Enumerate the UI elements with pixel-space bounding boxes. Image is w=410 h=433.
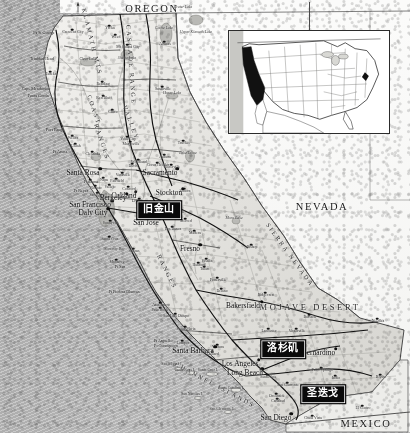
range-label-cascade-range: CASCADE RANGE: [125, 25, 137, 106]
city-label-santa-cruz: Santa Cruz: [101, 238, 118, 242]
city-label-chico: Chico: [108, 111, 117, 115]
coast-label-pt-piedras-blancas: Pt Piedras Blancas: [108, 290, 139, 294]
range-label-central-valley: VALLEY: [122, 104, 141, 141]
city-label-long-beach: Long Beach: [227, 369, 263, 376]
city-label-porterville: Porterville: [210, 279, 226, 283]
coast-label-trinidad-head: Trinidad Head: [30, 57, 54, 61]
city-label-visalia: Visalia: [202, 260, 213, 264]
city-label-susanville: Susanville: [155, 88, 171, 92]
california-reference-map: OREGONNEVADAMEXICOMOJAVE DESERTCOASTRANG…: [0, 0, 410, 433]
island-label-san-nicolas-i: San Nicolas I.: [181, 393, 203, 397]
city-label-vallejo: Vallejo: [104, 186, 115, 190]
city-label-san-clemente: San Clemente: [277, 384, 299, 388]
city-label-stockton: Stockton: [156, 189, 182, 196]
region-label-mexico: MEXICO: [340, 419, 391, 430]
island-label-santa-rosa-i: Santa Rosa I.: [175, 369, 196, 373]
region-label-oregon: OREGON: [125, 4, 178, 15]
island-label-san-clemente-i: San Clemente I.: [210, 408, 235, 412]
city-label-monterey: Monterey: [109, 261, 124, 265]
water-label-monterey-bay: Monterey Bay: [103, 248, 124, 252]
coast-label-pt-st-george: Pt St George: [33, 31, 54, 35]
island-label-san-miguel-i: San Miguel I.: [161, 363, 182, 367]
water-label-clear-lake: Clear Lake: [80, 58, 97, 62]
city-label-madera: Madera: [189, 232, 201, 236]
city-dot-bakersfield: [260, 300, 264, 304]
usa-locator-inset: [228, 30, 390, 134]
city-label-crescent-city: Crescent City: [62, 31, 83, 35]
coast-label-pt-reyes: Pt Reyes: [74, 189, 89, 193]
city-label-eureka: Eureka: [45, 73, 56, 77]
city-label-fresno: Fresno: [180, 245, 200, 252]
city-label-mt-shasta-city: Mt Shasta City: [116, 46, 139, 50]
city-label-los-angeles: Los Angeles: [222, 360, 259, 367]
callout-los-angeles[interactable]: 洛杉矶: [261, 340, 305, 358]
city-label-red-bluff: Red Bluff: [96, 97, 111, 101]
city-label-blythe: Blythe: [376, 376, 386, 380]
city-label-san-diego: San Diego: [261, 414, 292, 421]
city-label-novato: Novato: [90, 187, 101, 191]
water-label-honey-lake: Honey Lake: [163, 92, 181, 96]
city-label-tulare: Tulare: [200, 268, 210, 272]
city-label-fairfield: Fairfield: [110, 180, 123, 184]
city-label-willits: Willits: [68, 137, 78, 141]
city-label-ridgecrest: Ridgecrest: [258, 294, 275, 298]
city-label-berkeley: Berkeley: [100, 194, 127, 201]
coast-label-fort-bragg: Fort Bragg: [46, 128, 64, 132]
city-label-san-luis-obispo: San Luis Obispo: [163, 315, 189, 319]
water-label-mono-lake: Mono Lake: [225, 217, 242, 221]
island-label-santa-cruz-i: Santa Cruz I.: [198, 369, 218, 373]
inset-leader-line: [309, 2, 310, 31]
city-label-clearlake: Clearlake: [86, 153, 101, 157]
range-label-sierra-nevada: SIERRA NEVADA: [265, 222, 315, 288]
city-label-napa: Napa: [100, 179, 108, 183]
water-label-crater-lake: Crater Lake: [174, 6, 192, 10]
city-label-bishop: Bishop: [246, 246, 257, 250]
range-label-coast-ranges-south: RANGES: [156, 254, 178, 291]
city-label-palm-springs: Palm Springs: [312, 369, 333, 373]
range-label-klamath-mts: KLAMATH MTS: [81, 8, 104, 76]
city-label-auburn: Auburn: [159, 156, 171, 160]
city-label-merced: Merced: [180, 220, 192, 224]
water-label-lake-tahoe: Lake Tahoe: [179, 152, 196, 156]
city-label-ukiah: Ukiah: [71, 145, 81, 149]
city-label-victorville: Victorville: [289, 330, 306, 334]
city-label-san-jose: San Jose: [133, 219, 159, 226]
city-label-alturas: Alturas: [159, 43, 170, 47]
city-label-vacaville: Vacaville: [116, 174, 130, 178]
city-label-delano: Delano: [216, 290, 227, 294]
coast-label-pt-sur: Pt Sur: [115, 265, 125, 269]
city-label-paso-robles: Paso Robles: [151, 309, 170, 313]
water-label-shasta-lake: Shasta Lake: [118, 57, 136, 61]
city-label-carlsbad: Carlsbad: [271, 400, 285, 404]
city-label-weed: Weed: [112, 36, 121, 40]
city-label-davis: Davis: [128, 165, 137, 169]
city-label-santa-rosa: Santa Rosa: [66, 169, 99, 176]
callout-san-diego[interactable]: 圣迭戈: [301, 385, 345, 403]
water-label-upper-klamath-lake: Upper Klamath Lake: [180, 31, 212, 35]
city-label-salinas: Salinas: [128, 250, 139, 254]
city-label-indio: Indio: [332, 377, 340, 381]
city-label-los-banos: Los Banos: [165, 228, 182, 232]
city-label-chula-vista: Chula Vista: [304, 417, 322, 421]
coast-label-pt-arena: Pt Arena: [53, 150, 68, 154]
city-label-sacramento: Sacramento: [143, 169, 178, 176]
city-label-bakersfield: Bakersfield: [226, 302, 260, 309]
water-label-goose-lake: Goose Lake: [155, 27, 173, 31]
city-label-yreka: Yreka: [105, 27, 115, 31]
region-label-mojave-desert: MOJAVE DESERT: [260, 303, 361, 312]
city-label-santa-barbara: Santa Barbara: [172, 347, 214, 354]
city-label-sunnyvale: Sunnyvale: [103, 222, 119, 226]
city-label-needles: Needles: [372, 320, 385, 324]
city-label-redding: Redding: [96, 83, 109, 87]
city-label-truckee: Truckee: [178, 142, 191, 146]
coast-label-cape-mendocino: Cape Mendocino: [22, 87, 51, 91]
city-label-santa-maria: Santa Maria: [177, 328, 196, 332]
city-label-lancaster: Lancaster: [261, 330, 276, 334]
region-label-nevada: NEVADA: [296, 202, 349, 213]
city-label-marysville: Marysville: [123, 143, 140, 147]
city-label-barstow: Barstow: [304, 316, 317, 320]
city-label-el-centro: El Centro: [355, 407, 370, 411]
callout-san-francisco[interactable]: 旧金山: [137, 201, 181, 219]
city-label-daly-city: Daly City: [79, 209, 108, 216]
island-label-santa-catalina-i: Santa Catalina I.: [218, 387, 244, 391]
